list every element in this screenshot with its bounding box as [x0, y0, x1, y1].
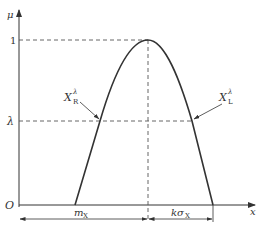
- label-mean: m X: [74, 207, 88, 220]
- svg-text:X: X: [185, 212, 190, 220]
- svg-text:λ: λ: [72, 88, 77, 96]
- leader-line-left-point: [194, 104, 222, 119]
- svg-text:R: R: [73, 98, 79, 106]
- origin-label: O: [5, 199, 14, 212]
- svg-text:X: X: [63, 91, 73, 104]
- y-axis-label: μ: [7, 9, 14, 20]
- label-left-point: X L λ: [218, 88, 233, 106]
- y-tick-one: 1: [10, 35, 16, 46]
- svg-text:L: L: [228, 98, 233, 106]
- label-spread: kσ X: [171, 207, 190, 220]
- diagram-canvas: μ x O 1 λ X R λ X L λ m X kσ X: [0, 0, 262, 232]
- svg-text:λ: λ: [227, 88, 232, 96]
- label-right-point: X R λ: [63, 88, 79, 106]
- leader-line-right-point: [80, 102, 99, 119]
- y-tick-lambda: λ: [6, 115, 14, 128]
- x-axis-label: x: [250, 206, 256, 217]
- svg-text:X: X: [218, 91, 228, 104]
- svg-text:kσ: kσ: [171, 207, 185, 218]
- membership-curve: [75, 40, 213, 205]
- svg-text:X: X: [83, 212, 88, 220]
